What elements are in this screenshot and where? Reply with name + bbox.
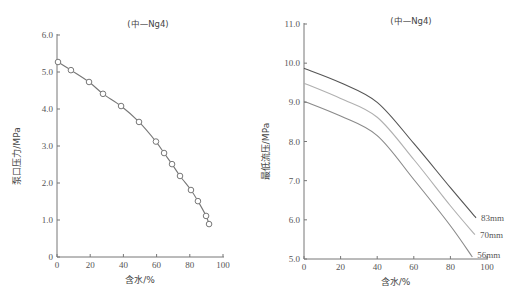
data-point-marker [118,103,124,109]
y-tick-label: 1.0 [42,215,54,225]
data-point-marker [203,213,209,219]
series-label-83mm: 83mm [481,213,504,223]
y-tick-label: 6.0 [42,30,54,40]
y-tick-label: 11.0 [285,19,301,29]
data-point-marker [55,59,61,65]
y-tick-label: 3.0 [42,141,54,151]
data-point-marker [100,91,106,97]
x-axis-title: 含水/% [381,276,411,287]
y-tick-label: 5.0 [42,67,54,77]
chart-left-plot: 01.02.03.04.05.06.0020406080100含水/%泵口压力/… [0,0,259,297]
x-tick-label: 100 [216,260,230,270]
data-point-marker [206,221,212,227]
x-axis-title: 含水/% [125,274,155,285]
y-tick-label: 8.0 [289,137,301,147]
y-tick-label: 4.0 [42,104,54,114]
chart-pump-intake-pressure: 01.02.03.04.05.06.0020406080100含水/%泵口压力/… [0,0,259,297]
chart-min-flowing-pressure: 5.06.07.08.09.010.011.0020406080100含水/%最… [259,0,518,297]
series-line-泵口压力 [58,62,209,224]
x-tick-label: 20 [86,260,96,270]
data-point-marker [86,79,92,85]
series-line-56mm [304,101,472,257]
series-label-56mm: 56mm [477,250,500,260]
chart-title: (中—Ng4) [127,19,168,29]
x-tick-label: 60 [409,262,419,272]
y-tick-label: 10.0 [284,58,300,68]
series-line-70mm [304,83,475,235]
x-tick-label: 80 [446,262,456,272]
data-point-marker [161,150,167,156]
data-point-marker [188,187,194,193]
y-tick-label: 2.0 [42,178,54,188]
data-point-marker [177,173,183,179]
y-tick-label: 5.0 [289,254,301,264]
y-tick-label: 0 [49,252,54,262]
x-tick-label: 40 [373,262,383,272]
chart-right-plot: 5.06.07.08.09.010.011.0020406080100含水/%最… [259,0,518,297]
x-tick-label: 20 [336,262,346,272]
series-label-70mm: 70mm [480,230,503,240]
chart-title: (中—Ng4) [390,16,431,26]
data-point-marker [195,198,201,204]
series-line-83mm [304,68,476,218]
x-tick-label: 100 [480,262,494,272]
data-point-marker [169,161,175,167]
x-tick-label: 0 [55,260,60,270]
y-axis-title: 泵口压力/MPa [11,127,22,184]
y-tick-label: 9.0 [289,97,301,107]
x-tick-label: 0 [302,262,307,272]
x-tick-label: 80 [185,260,195,270]
data-point-marker [153,139,159,145]
y-axis-title: 最低流压/MPa [260,123,271,180]
y-tick-label: 6.0 [289,215,301,225]
data-point-marker [136,119,142,125]
data-point-marker [68,67,74,73]
y-tick-label: 7.0 [289,176,301,186]
x-tick-label: 40 [119,260,129,270]
x-tick-label: 60 [152,260,162,270]
